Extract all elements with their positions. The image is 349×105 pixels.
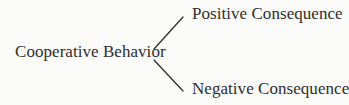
node-cooperative-behavior: Cooperative Behavior: [15, 42, 166, 62]
edge-to-negative: [154, 60, 183, 91]
branching-diagram: Cooperative Behavior Positive Consequenc…: [0, 0, 349, 105]
node-negative-consequence: Negative Consequence: [192, 79, 349, 99]
node-positive-consequence: Positive Consequence: [192, 4, 343, 24]
